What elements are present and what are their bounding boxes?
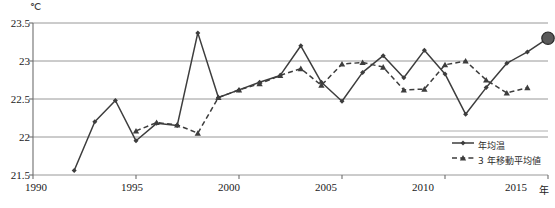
data-series-layer: [72, 30, 555, 173]
x-axis-ticks: [33, 175, 548, 179]
legend-markers: [452, 141, 474, 161]
chart-plot-area: [0, 0, 555, 208]
gridlines: [29, 23, 548, 175]
chart-figure: ℃ 23.5 23 22.5 22 21.5 1990 1995 2000 20…: [0, 0, 555, 208]
